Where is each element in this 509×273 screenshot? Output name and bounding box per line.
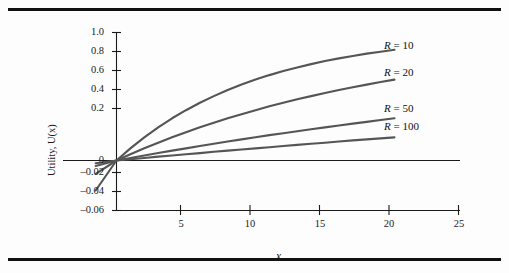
series-eq-R-50: =: [391, 102, 403, 114]
y-tick-label-5: 0.2: [62, 103, 104, 114]
series-value-R-50: 50: [402, 102, 413, 114]
series-label-R-100: R = 100: [384, 120, 419, 132]
y-axis-title: Utility, U(x): [46, 124, 57, 176]
bottom-rule: [8, 258, 501, 261]
series-label-R-20: R = 20: [384, 66, 413, 78]
series-value-R-20: 20: [402, 66, 413, 78]
x-tick-label-4: 20: [374, 219, 404, 230]
curve-R-20: [96, 80, 395, 174]
x-tick-label-1: 5: [166, 219, 196, 230]
x-tick-label-5: 25: [444, 219, 474, 230]
top-rule: [8, 8, 501, 11]
series-value-R-10: 10: [402, 39, 413, 51]
series-label-R-50: R = 50: [384, 102, 413, 114]
y-tick-label-4: 0.4: [62, 84, 104, 95]
curve-R-10: [96, 50, 395, 191]
series-label-R-10: R = 10: [384, 39, 413, 51]
y-tick-label-8: –0.04: [62, 186, 104, 197]
x-tick-label-3: 15: [305, 219, 335, 230]
y-tick-label-7: –0.02: [62, 167, 104, 178]
figure-container: 1.0 0.8 0.6 0.4 0.2 0 –0.02 –0.04 –0.06 …: [0, 0, 509, 273]
x-axis-title: x: [276, 250, 281, 262]
y-tick-label-6: 0: [62, 155, 104, 166]
y-tick-label-1: 1.0: [62, 27, 104, 38]
chart-plot-area: 1.0 0.8 0.6 0.4 0.2 0 –0.02 –0.04 –0.06 …: [0, 14, 509, 254]
series-symbol-R-100: R: [384, 120, 391, 132]
series-value-R-100: 100: [402, 120, 419, 132]
series-eq-R-100: =: [391, 120, 403, 132]
series-symbol-R-10: R: [384, 39, 391, 51]
series-eq-R-10: =: [391, 39, 403, 51]
series-symbol-R-20: R: [384, 66, 391, 78]
x-tick-label-2: 10: [235, 219, 265, 230]
series-symbol-R-50: R: [384, 102, 391, 114]
y-tick-label-3: 0.6: [62, 65, 104, 76]
series-eq-R-20: =: [391, 66, 403, 78]
y-tick-label-2: 0.8: [62, 46, 104, 57]
y-tick-label-9: –0.06: [62, 205, 104, 216]
